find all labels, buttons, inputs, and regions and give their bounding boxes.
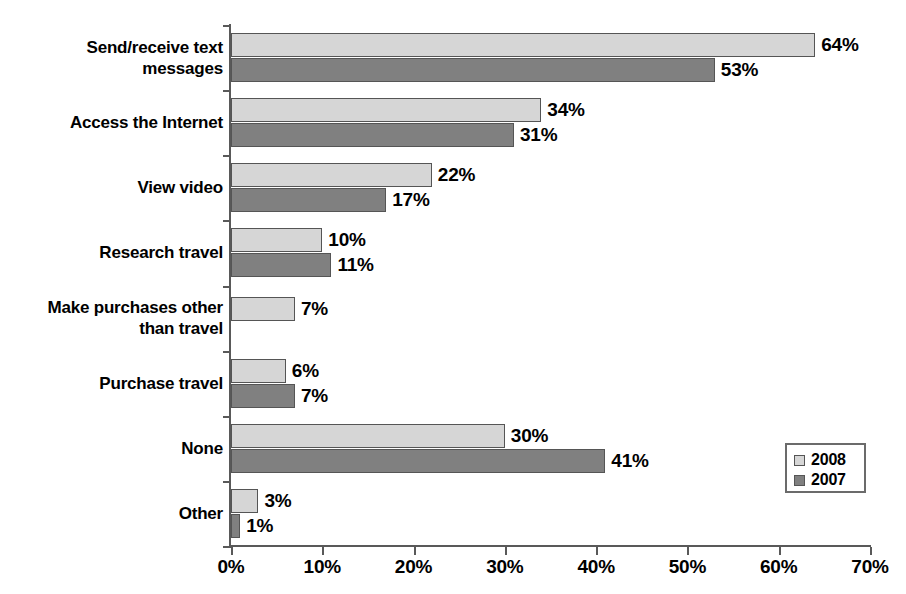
category-label: Purchase travel <box>3 373 223 394</box>
category-label-line: Send/receive text <box>87 38 223 57</box>
bar-value-label-2008: 10% <box>328 229 365 251</box>
bar-2007 <box>231 449 605 473</box>
legend-item-2008: 2008 <box>794 450 864 470</box>
bar-2007 <box>231 58 715 82</box>
bar-2007 <box>231 253 331 277</box>
x-axis-tick <box>505 547 507 555</box>
category-label-line: messages <box>142 59 223 78</box>
bar-value-label-2007: 53% <box>721 59 758 81</box>
x-axis-tick <box>687 547 689 555</box>
y-axis-tick <box>223 546 231 548</box>
category-label-line: than travel <box>139 319 223 338</box>
x-axis-tick-label: 0% <box>186 556 276 578</box>
bar-value-label-2008: 34% <box>547 99 584 121</box>
category-label: None <box>3 438 223 459</box>
bar-value-label-2007: 41% <box>611 450 648 472</box>
category-label: Make purchases otherthan travel <box>3 297 223 339</box>
y-axis-tick <box>223 220 231 222</box>
x-axis-tick-label: 60% <box>734 556 824 578</box>
bar-value-label-2007: 11% <box>337 254 373 276</box>
bar-2008 <box>231 489 258 513</box>
bar-2007 <box>231 123 514 147</box>
x-axis-tick-label: 10% <box>277 556 367 578</box>
y-axis-tick <box>223 351 231 353</box>
y-axis-tick <box>223 416 231 418</box>
bar-2008 <box>231 163 432 187</box>
category-label: View video <box>3 177 223 198</box>
category-label-line: Other <box>179 504 223 523</box>
x-axis-tick-label: 40% <box>551 556 641 578</box>
bar-2008 <box>231 359 286 383</box>
x-axis-tick <box>322 547 324 555</box>
bar-2007 <box>231 514 240 538</box>
bar-value-label-2008: 64% <box>821 34 858 56</box>
legend-swatch-icon-2008 <box>794 455 805 466</box>
x-axis-tick <box>414 547 416 555</box>
category-label: Send/receive textmessages <box>3 37 223 79</box>
y-axis-tick <box>223 25 231 27</box>
bar-2008 <box>231 424 505 448</box>
x-axis-tick <box>596 547 598 555</box>
bar-2008 <box>231 33 815 57</box>
category-label: Other <box>3 503 223 524</box>
bar-2008 <box>231 228 322 252</box>
x-axis-tick <box>231 547 233 555</box>
legend-swatch-icon-2007 <box>794 475 805 486</box>
category-label-line: Make purchases other <box>47 298 223 317</box>
y-axis-tick <box>223 286 231 288</box>
bar-value-label-2007: 31% <box>520 124 557 146</box>
category-label-line: Research travel <box>99 243 223 262</box>
bar-2007 <box>231 384 295 408</box>
x-axis-tick <box>870 547 872 555</box>
x-axis-tick-label: 30% <box>460 556 550 578</box>
category-label: Research travel <box>3 242 223 263</box>
legend-label-2008: 2008 <box>811 451 846 469</box>
category-label: Access the Internet <box>3 112 223 133</box>
category-label-line: None <box>181 439 223 458</box>
legend-label-2007: 2007 <box>811 471 846 489</box>
legend: 2008 2007 <box>785 443 866 493</box>
bar-2008 <box>231 98 541 122</box>
x-axis-tick-label: 20% <box>369 556 459 578</box>
bar-value-label-2008: 7% <box>301 298 328 320</box>
bar-value-label-2008: 30% <box>511 425 548 447</box>
category-label-line: Purchase travel <box>99 374 223 393</box>
legend-item-2007: 2007 <box>794 470 864 490</box>
y-axis-tick <box>223 481 231 483</box>
category-label-line: View video <box>137 178 223 197</box>
plot-area: 64%53%34%31%22%17%10%11%7%6%7%30%41%3%1% <box>231 25 870 546</box>
bar-value-label-2007: 7% <box>301 385 328 407</box>
x-axis-tick <box>779 547 781 555</box>
bar-value-label-2008: 3% <box>264 490 291 512</box>
x-axis-tick-label: 50% <box>642 556 732 578</box>
category-label-line: Access the Internet <box>70 113 223 132</box>
bar-2007 <box>231 188 386 212</box>
y-axis-tick <box>223 90 231 92</box>
y-axis-tick <box>223 155 231 157</box>
bar-chart: 64%53%34%31%22%17%10%11%7%6%7%30%41%3%1%… <box>0 0 906 594</box>
bar-2008 <box>231 297 295 321</box>
bar-value-label-2007: 1% <box>246 515 273 537</box>
bar-value-label-2008: 22% <box>438 164 475 186</box>
x-axis-tick-label: 70% <box>825 556 906 578</box>
bar-value-label-2008: 6% <box>292 360 319 382</box>
bar-value-label-2007: 17% <box>392 189 429 211</box>
